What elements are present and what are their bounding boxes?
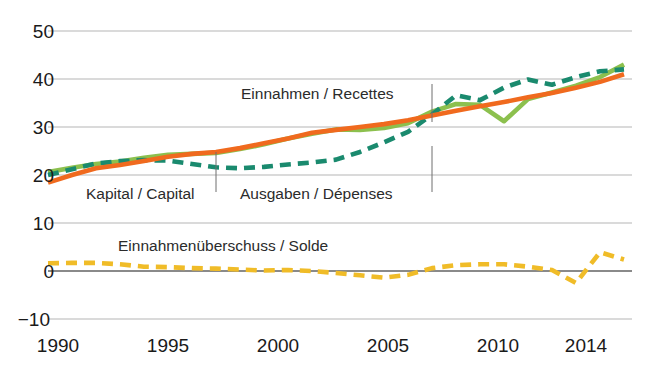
x-tick-label: 2005 (353, 336, 423, 355)
x-tick-label: 1990 (23, 336, 93, 355)
y-tick-label: 50 (8, 22, 54, 41)
y-tick-label: 20 (8, 166, 54, 185)
annotation-balance: Einnahmenüberschuss / Solde (118, 238, 328, 254)
y-tick-label: 30 (8, 118, 54, 137)
annotation-revenue: Einnahmen / Recettes (241, 86, 394, 102)
x-tick-label: 2010 (463, 336, 533, 355)
gridlines-group (48, 31, 632, 319)
x-tick-label: 1995 (133, 336, 203, 355)
y-tick-label: 0 (8, 262, 54, 281)
series-line (48, 252, 624, 283)
y-tick-label: −10 (4, 310, 50, 329)
annotation-capital: Kapital / Capital (86, 186, 195, 202)
x-tick-label: 2014 (551, 336, 621, 355)
x-tick-label: 2000 (243, 336, 313, 355)
chart-container: 50 40 30 20 10 0 −10 1990 1995 2000 2005… (0, 0, 646, 378)
y-tick-label: 40 (8, 70, 54, 89)
y-tick-label: 10 (8, 214, 54, 233)
annotation-expenditure: Ausgaben / Dépenses (240, 186, 393, 202)
